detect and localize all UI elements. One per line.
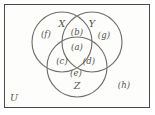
region-label-h: (h) [118,81,130,90]
set-label-y: Y [89,19,95,29]
region-label-f: (f) [41,30,51,39]
region-label-a: (a) [71,43,83,52]
region-label-c: (c) [56,57,68,66]
set-label-z: Z [74,81,81,91]
region-label-b: (b) [71,28,83,37]
venn-diagram-screenshot: X Y Z (a) (b) (c) (d) (e) (f) (g) (h) U [0,0,155,115]
set-label-x: X [59,19,66,29]
region-label-g: (g) [98,31,110,40]
region-label-e: (e) [70,69,82,78]
region-label-d: (d) [83,57,95,66]
universal-set-label: U [10,93,18,103]
venn-circles-group [0,0,155,115]
